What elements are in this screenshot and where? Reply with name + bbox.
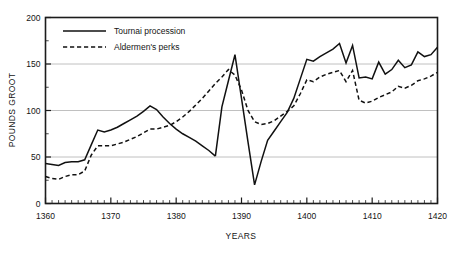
x-axis-title-text: YEARS (226, 231, 257, 241)
x-axis-title: YEARS (226, 231, 257, 241)
x-tick-label-1420: 1420 (428, 211, 447, 221)
x-tick-label-1410: 1410 (363, 211, 382, 221)
x-tick-label-1390: 1390 (232, 211, 251, 221)
y-tick-label-200: 200 (26, 13, 40, 23)
x-tick-label-1380: 1380 (167, 211, 186, 221)
y-tick-label-100: 100 (26, 106, 40, 116)
plot-background (0, 0, 460, 258)
y-tick-label-150: 150 (26, 59, 40, 69)
legend-label-0: Tournai procession (114, 26, 186, 36)
x-tick-label-1370: 1370 (101, 211, 120, 221)
x-tick-label-1400: 1400 (297, 211, 316, 221)
chart-container: 050100150200 136013701380139014001410142… (0, 0, 460, 258)
y-axis-title-text: POUNDS GROOT (7, 73, 17, 148)
y-axis-title: POUNDS GROOT (7, 73, 17, 148)
line-chart: 050100150200 136013701380139014001410142… (0, 0, 460, 258)
y-tick-label-50: 50 (31, 152, 41, 162)
y-tick-label-0: 0 (36, 199, 41, 209)
legend-label-1: Aldermen's perks (114, 42, 179, 52)
x-tick-label-1360: 1360 (36, 211, 55, 221)
